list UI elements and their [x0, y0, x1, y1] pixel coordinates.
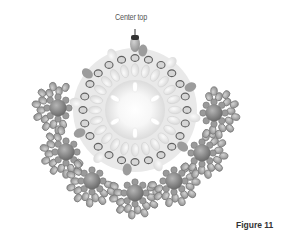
beadwork-diagram: [0, 0, 288, 245]
center-top-label: Center top: [115, 12, 147, 22]
center-body: [69, 44, 201, 176]
figure-caption: Figure 11: [236, 220, 273, 230]
center-top-marker: [130, 29, 140, 52]
